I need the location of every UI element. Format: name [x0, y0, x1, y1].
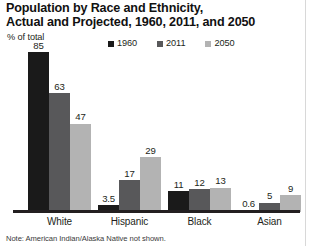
bar-rect — [49, 93, 70, 212]
bar-asian-2050[interactable]: 9 — [280, 52, 301, 212]
bar-rect — [189, 189, 210, 212]
bar-asian-2011[interactable]: 5 — [259, 52, 280, 212]
bar-group-asian: 0.659 — [238, 52, 301, 212]
bar-white-2050[interactable]: 47 — [70, 52, 91, 212]
category-label-black: Black — [168, 216, 231, 227]
chart-title-line-2: Actual and Projected, 1960, 2011, and 20… — [6, 15, 302, 29]
category-label-hispanic: Hispanic — [98, 216, 161, 227]
bar-value-label: 9 — [280, 184, 301, 194]
legend-label: 1960 — [117, 39, 137, 48]
chart-footnote: Note: American Indian/Alaska Native not … — [6, 234, 166, 243]
bar-white-2011[interactable]: 63 — [49, 52, 70, 212]
bar-group-black: 111213 — [168, 52, 231, 212]
legend-swatch-icon-2050 — [205, 41, 211, 47]
bar-value-label: 0.6 — [238, 199, 259, 209]
bar-value-label: 13 — [210, 176, 231, 186]
bar-value-label: 63 — [49, 82, 70, 92]
legend-swatch-icon-1960 — [108, 41, 114, 47]
bar-value-label: 5 — [259, 191, 280, 201]
chart-title: Population by Race and Ethnicity, Actual… — [6, 1, 302, 29]
plot-area: 8563473.517291112130.659 — [13, 52, 300, 212]
bar-rect — [28, 52, 49, 212]
bar-black-1960[interactable]: 11 — [168, 52, 189, 212]
category-label-asian: Asian — [238, 216, 301, 227]
bar-value-label: 3.5 — [98, 194, 119, 204]
bar-hispanic-2011[interactable]: 17 — [119, 52, 140, 212]
x-axis-baseline — [13, 210, 300, 213]
category-label-white: White — [28, 216, 91, 227]
legend-swatch-icon-2011 — [157, 41, 163, 47]
bar-black-2011[interactable]: 12 — [189, 52, 210, 212]
bar-black-2050[interactable]: 13 — [210, 52, 231, 212]
chart-legend: 196020112050 — [108, 39, 234, 48]
bar-hispanic-2050[interactable]: 29 — [140, 52, 161, 212]
bar-value-label: 11 — [168, 180, 189, 190]
bar-rect — [140, 157, 161, 212]
chart-title-line-1: Population by Race and Ethnicity, — [6, 1, 302, 15]
bar-white-1960[interactable]: 85 — [28, 52, 49, 212]
page-edge-rule — [305, 0, 306, 246]
bar-value-label: 17 — [119, 169, 140, 179]
bar-group-white: 856347 — [28, 52, 91, 212]
bar-value-label: 47 — [70, 112, 91, 122]
bar-rect — [168, 191, 189, 212]
bar-rect — [119, 180, 140, 212]
bar-value-label: 12 — [189, 178, 210, 188]
chart-figure: Population by Race and Ethnicity, Actual… — [0, 0, 318, 246]
bar-group-hispanic: 3.51729 — [98, 52, 161, 212]
legend-label: 2050 — [214, 39, 234, 48]
legend-label: 2011 — [166, 39, 185, 48]
bar-value-label: 85 — [28, 41, 49, 51]
bar-rect — [210, 188, 231, 212]
x-axis-category-labels: WhiteHispanicBlackAsian — [13, 216, 300, 230]
legend-item-2011[interactable]: 2011 — [157, 39, 185, 48]
bar-rect — [70, 124, 91, 212]
bar-value-label: 29 — [140, 146, 161, 156]
legend-item-1960[interactable]: 1960 — [108, 39, 137, 48]
legend-item-2050[interactable]: 2050 — [205, 39, 234, 48]
bar-hispanic-1960[interactable]: 3.5 — [98, 52, 119, 212]
bar-asian-1960[interactable]: 0.6 — [238, 52, 259, 212]
